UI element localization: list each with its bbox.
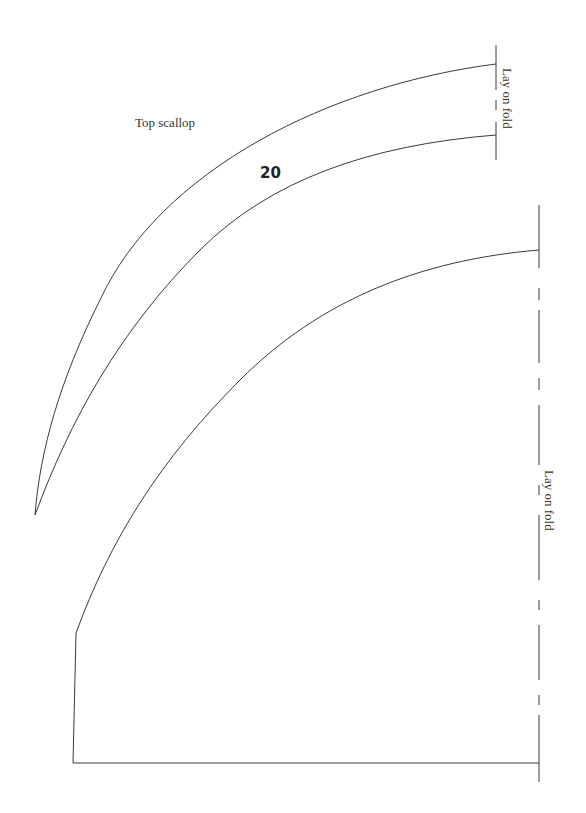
top-scallop-outer-edge — [35, 64, 496, 515]
piece-title: Top scallop — [135, 115, 195, 130]
bottom-piece-curved-edge — [76, 250, 539, 633]
bottom-piece: Lay on fold — [73, 205, 557, 782]
piece-number: 20 — [260, 164, 281, 182]
top-scallop-piece: Lay on fold Top scallop 20 — [35, 45, 515, 515]
top-scallop-inner-edge — [35, 135, 496, 515]
top-fold-label: Lay on fold — [500, 68, 515, 129]
bottom-fold-label: Lay on fold — [542, 470, 557, 531]
sewing-pattern-diagram: Lay on fold Top scallop 20 Lay on fold — [0, 0, 586, 813]
bottom-piece-left-bottom-edge — [73, 633, 539, 763]
